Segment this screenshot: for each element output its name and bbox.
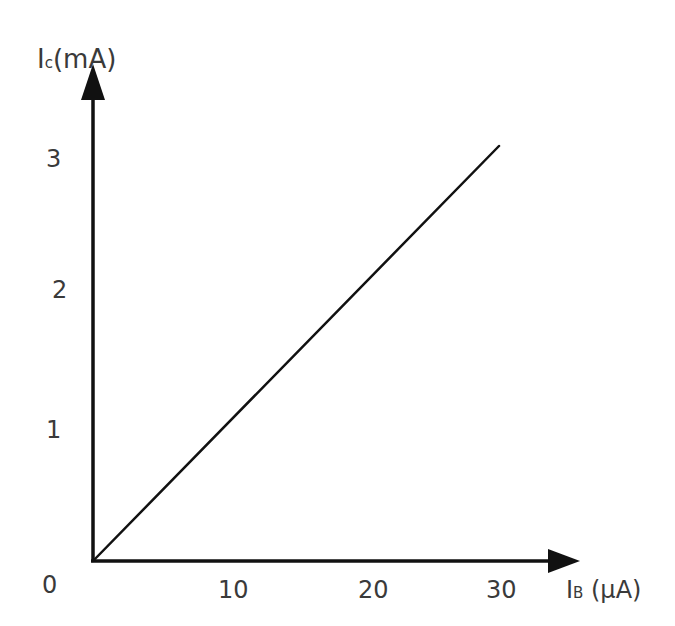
x-axis-label-unit: (μA) xyxy=(583,576,641,604)
x-tick-30: 30 xyxy=(486,578,517,602)
y-tick-3: 3 xyxy=(46,147,61,171)
data-line xyxy=(93,146,499,561)
x-axis-label-sub: B xyxy=(573,584,583,602)
y-axis-label-main: I xyxy=(37,44,45,74)
y-tick-2: 2 xyxy=(52,278,67,302)
y-tick-1: 1 xyxy=(46,418,61,442)
x-tick-20: 20 xyxy=(358,578,389,602)
y-axis-label-sub: C xyxy=(45,54,53,72)
y-axis-label-unit: (mA) xyxy=(53,44,116,74)
x-tick-10: 10 xyxy=(218,578,249,602)
y-axis-label: IC(mA) xyxy=(37,46,116,72)
x-axis-arrow-icon xyxy=(548,549,580,573)
chart-canvas xyxy=(0,0,675,626)
origin-label: 0 xyxy=(42,573,57,597)
x-axis-label: IB (μA) xyxy=(566,578,641,602)
